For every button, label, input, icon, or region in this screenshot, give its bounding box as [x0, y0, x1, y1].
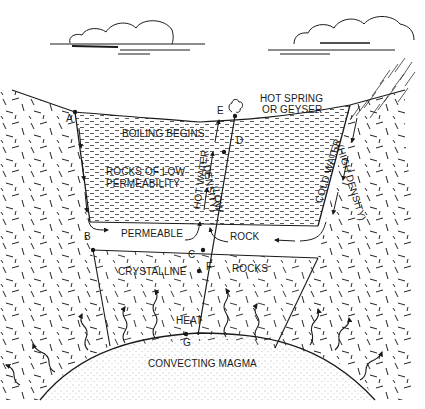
label-permeability: PERMEABILITY	[106, 178, 180, 189]
point-g: G	[183, 338, 191, 348]
point-b: B	[84, 232, 91, 242]
label-heat: HEAT	[176, 315, 202, 326]
label-permeable: PERMEABLE	[121, 228, 183, 239]
label-rocks: ROCKS	[232, 263, 268, 274]
label-hot-spring: HOT SPRING	[260, 93, 323, 104]
label-boiling-begins: BOILING BEGINS	[122, 128, 205, 139]
point-d: D	[236, 136, 243, 146]
label-rock: ROCK	[230, 231, 259, 242]
point-f: F	[206, 262, 212, 272]
label-rocks-of-low: ROCKS OF LOW	[106, 166, 185, 177]
cloud-right	[268, 17, 414, 55]
label-or-geyser: OR GEYSER	[262, 104, 322, 115]
point-c: C	[188, 250, 195, 260]
cloud-left	[50, 21, 205, 54]
label-crystalline: CRYSTALLINE	[118, 266, 187, 277]
steam-plume-icon	[229, 99, 243, 112]
point-a: A	[66, 114, 73, 124]
label-convecting-magma: CONVECTING MAGMA	[148, 358, 257, 369]
point-e: E	[217, 106, 224, 116]
